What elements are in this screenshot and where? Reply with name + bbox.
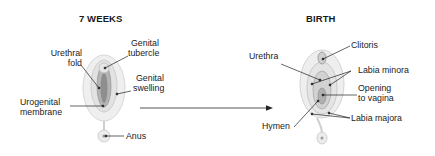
label-clitoris: Clitoris (351, 40, 378, 50)
label-genital-swelling: Genital swelling (133, 73, 164, 93)
label-labia-minora: Labia minora (358, 65, 409, 75)
birth-illustration (300, 50, 344, 144)
label-anus: Anus (126, 131, 146, 141)
label-hymen: Hymen (262, 121, 290, 131)
anatomy-diagram (0, 0, 435, 156)
label-labia-majora: Labia majora (351, 113, 402, 123)
development-arrow (140, 105, 273, 111)
label-urethral-fold: Urethral fold (46, 48, 82, 68)
label-opening-to-vagina: Opening to vagina (358, 83, 394, 103)
label-genital-tubercle: Genital tubercle (128, 38, 159, 58)
label-urogenital-membrane: Urogenital membrane (20, 97, 62, 117)
label-urethra: Urethra (249, 51, 278, 61)
